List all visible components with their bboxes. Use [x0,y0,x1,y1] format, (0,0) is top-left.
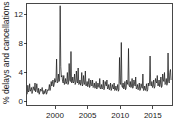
line-chart: % delays and cancellations 12 8 4 0 2000… [0,0,178,125]
data-series-line [27,6,171,95]
x-tick-marks [55,106,153,109]
x-tick-label-2015: 2015 [144,111,162,120]
x-tick-label-2005: 2005 [79,111,97,120]
y-tick-label-8: 8 [19,39,24,48]
x-tick-label-2010: 2010 [111,111,129,120]
x-tick-label-2000: 2000 [46,111,64,120]
y-tick-label-12: 12 [14,10,23,19]
y-tick-label-4: 4 [19,68,24,77]
chart-figure: % delays and cancellations 12 8 4 0 2000… [0,0,178,125]
y-tick-label-0: 0 [19,97,24,106]
y-tick-marks [24,14,27,101]
y-axis-label: % delays and cancellations [1,1,11,104]
